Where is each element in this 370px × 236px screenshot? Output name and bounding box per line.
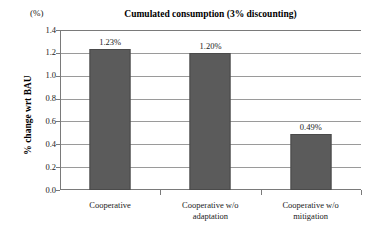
bar-slot-cooperative: 1.23% — [60, 30, 160, 190]
y-tick-label-1-2: 1.2 — [16, 48, 56, 57]
y-tick-label-0-4: 0.4 — [16, 140, 56, 149]
bar-chart: (%) Cumulated consumption (3% discountin… — [0, 0, 370, 236]
x-category-line: adaptation — [160, 211, 260, 222]
x-category-line: mitigation — [261, 211, 361, 222]
y-tick-label-0-2: 0.2 — [16, 163, 56, 172]
bar-value-cooperative-wo-adaptation: 1.20% — [200, 41, 222, 51]
x-category-line: Cooperative w/o — [261, 200, 361, 211]
bar-cooperative-wo-adaptation[interactable] — [190, 53, 231, 190]
x-tick-1 — [160, 190, 161, 195]
x-tick-3 — [361, 190, 362, 195]
y-tick-label-0-6: 0.6 — [16, 117, 56, 126]
x-tick-2 — [261, 190, 262, 195]
bar-cooperative-wo-mitigation[interactable] — [290, 134, 331, 190]
x-category-label-cooperative-wo-mitigation: Cooperative w/o mitigation — [261, 200, 361, 222]
y-tick-label-1-4: 1.4 — [16, 26, 56, 35]
y-axis-unit-label: (%) — [30, 8, 44, 19]
bars-layer: 1.23% 1.20% 0.49% — [60, 30, 361, 190]
bar-slot-cooperative-wo-mitigation: 0.49% — [261, 30, 361, 190]
x-category-label-cooperative: Cooperative — [60, 200, 160, 211]
bar-value-cooperative: 1.23% — [99, 37, 121, 47]
chart-title: Cumulated consumption (3% discounting) — [60, 8, 361, 20]
x-category-label-cooperative-wo-adaptation: Cooperative w/o adaptation — [160, 200, 260, 222]
bar-slot-cooperative-wo-adaptation: 1.20% — [160, 30, 260, 190]
x-category-line: Cooperative w/o — [160, 200, 260, 211]
bar-value-cooperative-wo-mitigation: 0.49% — [300, 122, 322, 132]
y-tick-mark-0-0 — [56, 190, 60, 191]
y-tick-label-0-8: 0.8 — [16, 94, 56, 103]
y-tick-label-0-0: 0.0 — [16, 186, 56, 195]
bar-cooperative[interactable] — [90, 49, 131, 190]
x-category-line: Cooperative — [60, 200, 160, 211]
y-tick-label-1-0: 1.0 — [16, 71, 56, 80]
